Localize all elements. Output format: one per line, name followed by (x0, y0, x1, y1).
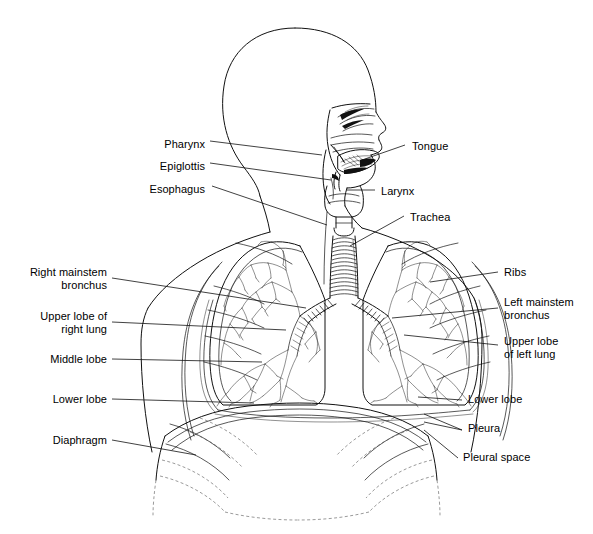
label-pharynx: Pharynx (85, 138, 205, 151)
larynx (325, 186, 364, 236)
lower-ribs-dashed (153, 418, 440, 520)
leader-pleura-a (424, 414, 462, 430)
label-upper-lobe-right-lung: Upper lobe of right lung (7, 310, 107, 335)
pleura-double-line (200, 300, 488, 422)
label-upper-lobe-left-lung: Upper lobe of left lung (504, 335, 593, 360)
trachea-cartilage-rings (330, 236, 358, 298)
leader-lower-lobe-left (418, 397, 462, 400)
label-lower-lobe-left: Lower lobe (468, 393, 588, 406)
leader-upper-lobe-left (404, 335, 498, 345)
leader-esophagus (212, 186, 327, 225)
bronchial-tree-right-fine (217, 242, 317, 407)
leader-pleural-space (424, 430, 458, 458)
bronchial-tree-left-fine (371, 242, 471, 407)
leader-tongue (362, 145, 405, 160)
label-esophagus: Esophagus (85, 183, 205, 196)
label-lower-lobe-right: Lower lobe (7, 393, 107, 406)
neck (260, 196, 362, 232)
leader-middle-lobe (112, 359, 262, 362)
label-tongue: Tongue (412, 140, 532, 153)
label-pleura: Pleura (468, 422, 588, 435)
leader-ribs (430, 272, 498, 282)
diaphragm-dome (156, 403, 437, 480)
left-lung (363, 242, 478, 405)
lower-ribs (166, 424, 428, 480)
label-trachea: Trachea (410, 211, 530, 224)
leader-pharynx (210, 141, 322, 155)
esophagus (324, 212, 327, 284)
nasal-cavity (338, 106, 375, 131)
right-lung (210, 242, 325, 405)
label-middle-lobe: Middle lobe (7, 353, 107, 366)
label-left-mainstem-bronchus: Left mainstem bronchus (504, 296, 593, 321)
label-pleural-space: Pleural space (463, 451, 583, 464)
label-larynx: Larynx (381, 185, 501, 198)
leader-epiglottis (210, 163, 331, 180)
leader-pleura-b (424, 422, 462, 430)
label-right-mainstem-bronchus: Right mainstem bronchus (7, 266, 107, 291)
leader-trachea (350, 216, 404, 246)
mainstem-bronchi (288, 298, 400, 356)
leader-right-mainstem (112, 278, 306, 308)
label-epiglottis: Epiglottis (85, 160, 205, 173)
leader-diaphragm (112, 440, 196, 455)
label-diaphragm: Diaphragm (7, 434, 107, 447)
respiratory-diagram: Pharynx Epiglottis Esophagus Right mains… (0, 0, 593, 534)
label-ribs: Ribs (504, 266, 593, 279)
